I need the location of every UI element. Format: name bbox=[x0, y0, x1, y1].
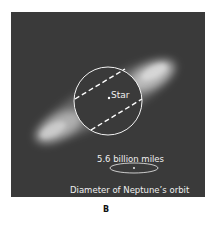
scale-label: 5.6 billion miles bbox=[97, 154, 164, 164]
nebula-diagram bbox=[11, 12, 205, 197]
neptune-orbit-center-dot bbox=[133, 167, 135, 169]
star-dot bbox=[108, 97, 110, 99]
orbit-label: Diameter of Neptune’s orbit bbox=[70, 185, 189, 195]
star-region-circle bbox=[74, 67, 142, 135]
star-label: Star bbox=[111, 90, 129, 100]
panel-letter: B bbox=[103, 205, 109, 214]
image-panel: Star 5.6 billion miles Diameter of Neptu… bbox=[11, 12, 205, 197]
